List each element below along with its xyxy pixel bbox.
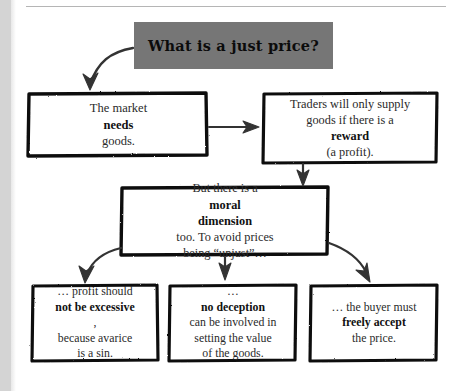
node-text-line: The market needs goods. xyxy=(31,100,206,150)
node-text-line: Traders will only supply xyxy=(265,96,435,112)
node-text-line: being “unjust”… xyxy=(124,245,326,261)
node-text-body: … profit shouldnot be excessive,because … xyxy=(35,284,155,362)
node-deception: … no deceptioncan be involved insetting … xyxy=(172,288,294,358)
node-profit: … profit shouldnot be excessive,because … xyxy=(35,288,155,358)
title-banner: What is a just price? xyxy=(134,22,333,69)
node-traders: Traders will only supplygoods if there i… xyxy=(265,96,435,160)
node-text-line: not be excessive, xyxy=(35,300,155,331)
node-text-line: dimension too. To avoid prices xyxy=(124,213,326,245)
arrow-moral-to-buyer xyxy=(329,243,370,282)
arrow-market-to-traders xyxy=(209,121,259,133)
node-text-line: because avarice xyxy=(35,331,155,347)
node-text-body: … the buyer mustfreely acceptthe price. xyxy=(313,300,435,347)
node-text-line: … no deception xyxy=(172,284,294,315)
node-text-line: can be involved in xyxy=(172,315,294,331)
node-text-line: goods if there is a xyxy=(265,112,435,128)
node-text-line: the price. xyxy=(313,331,435,347)
node-text-body: But there is a moraldimension too. To av… xyxy=(124,180,326,261)
node-text-line: freely accept xyxy=(313,315,435,331)
page-title: What is a just price? xyxy=(148,37,319,54)
top-horizontal-rule xyxy=(26,6,446,7)
node-text-line: … profit should xyxy=(35,284,155,300)
scan-page-gutter xyxy=(0,0,11,391)
node-text-line: reward (a profit). xyxy=(265,128,435,160)
node-buyer: … the buyer mustfreely acceptthe price. xyxy=(313,288,435,358)
node-text-line: But there is a moral xyxy=(124,180,326,212)
arrow-title-to-market xyxy=(83,48,133,90)
node-text-line: is a sin. xyxy=(35,346,155,362)
diagram-page: What is a just price? The market needs g… xyxy=(0,0,453,391)
node-text-body: The market needs goods. xyxy=(31,100,206,150)
scan-page-gutter-fade xyxy=(11,0,16,391)
node-market: The market needs goods. xyxy=(31,96,206,154)
node-text-line: … the buyer must xyxy=(313,300,435,316)
arrow-moral-to-profit xyxy=(79,248,121,283)
node-text-line: of the goods. xyxy=(172,346,294,362)
node-text-body: … no deceptioncan be involved insetting … xyxy=(172,284,294,362)
node-moral: But there is a moraldimension too. To av… xyxy=(124,190,326,252)
node-text-body: Traders will only supplygoods if there i… xyxy=(265,96,435,161)
node-text-line: setting the value xyxy=(172,331,294,347)
